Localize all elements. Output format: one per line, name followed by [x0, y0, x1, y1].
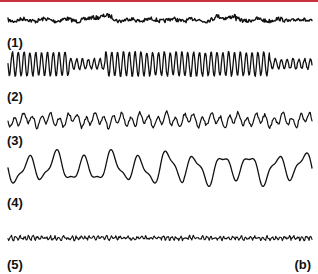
panel-label: (b) — [294, 258, 311, 271]
trace-5-waveform — [8, 230, 312, 246]
trace-2-label: (2) — [7, 90, 23, 103]
trace-3-label: (3) — [7, 134, 23, 147]
trace-1-waveform — [8, 8, 312, 32]
trace-3-waveform — [8, 104, 312, 136]
trace-4-waveform — [8, 148, 312, 196]
trace-2-waveform — [8, 46, 312, 82]
trace-5-label: (5) — [7, 258, 23, 271]
trace-4-label: (4) — [7, 196, 23, 209]
top-border — [0, 0, 318, 2]
